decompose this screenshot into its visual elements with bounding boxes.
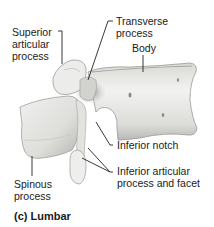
label-superior-articular-process: Superior articular process	[12, 26, 52, 62]
inferior-articular-process-shape	[70, 150, 86, 184]
vertebral-body	[88, 63, 197, 140]
spinous-process-shape	[20, 96, 80, 158]
label-body: Body	[132, 42, 156, 54]
label-spinous-process: Spinous process	[14, 178, 52, 202]
label-inferior-notch: Inferior notch	[117, 139, 178, 151]
label-transverse-process: Transverse process	[116, 15, 168, 39]
label-inferior-articular-process: Inferior articular process and facet	[117, 165, 200, 189]
figure-caption: (c) Lumbar	[14, 210, 71, 222]
